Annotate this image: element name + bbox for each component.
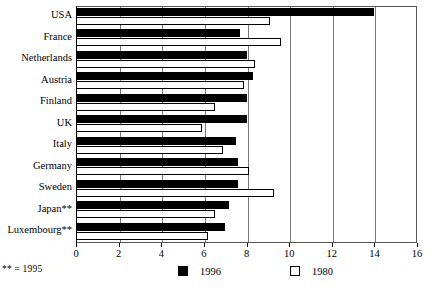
bar-1996 [76,223,225,231]
axis-tick-label: 4 [149,248,173,259]
bar-group [76,178,417,200]
legend-swatch-filled-square-icon [178,266,188,276]
axis-tick [374,243,375,247]
bar-1980 [76,17,270,25]
bar-1996 [76,115,247,123]
category-axis-labels: USA France Netherlands Austria Finland U… [0,6,72,243]
bar-group [76,71,417,93]
bar-1996 [76,201,229,209]
category-label: Sweden [0,181,72,192]
bar-1980 [76,167,249,175]
axis-tick-label: 14 [362,248,386,259]
bar-1980 [76,38,281,46]
axis-tick-label: 12 [320,248,344,259]
bar-group [76,135,417,157]
bar-group [76,28,417,50]
category-label: Netherlands [0,52,72,63]
bar-1980 [76,146,223,154]
bar-1980 [76,189,274,197]
category-label: Italy [0,138,72,149]
axis-tick-label: 6 [192,248,216,259]
bar-group [76,49,417,71]
axis-tick [289,243,290,247]
category-label: Luxembourg** [0,224,72,235]
axis-tick-label: 0 [64,248,88,259]
bar-group [76,157,417,179]
bar-group [76,92,417,114]
category-label: UK [0,117,72,128]
axis-tick-label: 16 [405,248,429,259]
category-label: Finland [0,95,72,106]
bar-group [76,221,417,243]
bar-chart: USA France Netherlands Austria Finland U… [0,0,436,296]
bar-group [76,114,417,136]
category-label: France [0,31,72,42]
bar-1980 [76,124,202,132]
legend-item-1980: 1980 [290,262,333,280]
bar-group [76,6,417,28]
category-label: Japan** [0,203,72,214]
legend-label: 1980 [312,266,333,277]
bar-1996 [76,51,247,59]
axis-tick-label: 8 [235,248,259,259]
category-label: Austria [0,74,72,85]
bar-1996 [76,29,240,37]
axis-tick [119,243,120,247]
axis-tick [247,243,248,247]
axis-tick [161,243,162,247]
axis-tick [417,243,418,247]
bar-1996 [76,94,247,102]
bar-1980 [76,232,208,240]
bar-1996 [76,158,238,166]
axis-tick-label: 10 [277,248,301,259]
bar-rows [76,6,417,243]
bar-1996 [76,180,238,188]
category-label: USA [0,9,72,20]
axis-tick-label: 2 [107,248,131,259]
category-label: Germany [0,160,72,171]
bar-1980 [76,60,255,68]
axis-tick [332,243,333,247]
legend-swatch-hollow-square-icon [290,266,300,276]
bar-1996 [76,8,374,16]
bar-1980 [76,103,215,111]
bar-1996 [76,137,236,145]
axis-tick [204,243,205,247]
x-axis: 0246810121416 [76,243,417,263]
bar-1996 [76,72,253,80]
axis-tick [76,243,77,247]
bar-group [76,200,417,222]
legend: 1996 1980 [0,262,436,284]
legend-item-1996: 1996 [178,262,221,280]
legend-label: 1996 [200,266,221,277]
bar-1980 [76,210,215,218]
bar-1980 [76,81,244,89]
